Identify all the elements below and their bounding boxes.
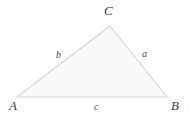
vertex-label-c: C — [104, 4, 113, 17]
triangle-polygon — [17, 26, 167, 97]
triangle-diagram: C A B a b c — [0, 0, 189, 118]
side-label-a: a — [142, 49, 147, 59]
vertex-label-a: A — [9, 99, 17, 112]
side-label-c: c — [94, 102, 98, 112]
vertex-label-b: B — [171, 99, 179, 112]
side-label-b: b — [56, 50, 61, 60]
